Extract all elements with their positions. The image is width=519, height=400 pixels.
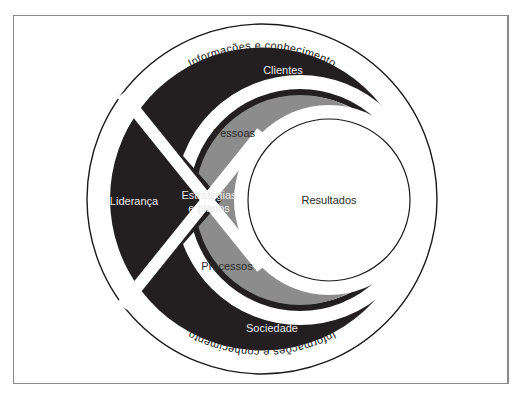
label-pessoas: Pessoas xyxy=(213,127,256,139)
label-clientes: Clientes xyxy=(263,64,303,76)
model-diagram: Informações e conhecimento Informações e… xyxy=(0,0,519,400)
label-estrategias-line1: Estratégias xyxy=(181,189,237,201)
label-lideranca: Liderança xyxy=(110,195,159,207)
label-estrategias-line2: e planos xyxy=(188,202,230,214)
label-sociedade: Sociedade xyxy=(246,322,298,334)
label-resultados: Resultados xyxy=(301,194,357,206)
label-processos: Processos xyxy=(201,260,253,272)
